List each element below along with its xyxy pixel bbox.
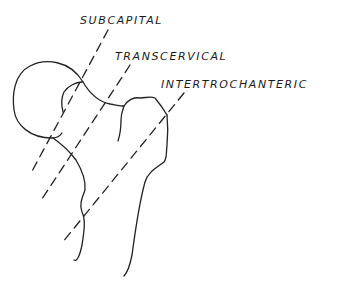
medial-shaft-outline — [53, 138, 85, 260]
subcapital-label: SUBCAPITAL — [80, 15, 163, 26]
superior-neck-outline — [83, 82, 167, 115]
subcapital-fracture-line — [30, 30, 108, 175]
trochanteric-crest-line — [118, 106, 124, 141]
transcervical-label: TRANSCERVICAL — [115, 51, 227, 62]
femoral-head-outline — [13, 62, 83, 138]
femur-diagram: SUBCAPITAL TRANSCERVICAL INTERTROCHANTER… — [0, 0, 351, 286]
intertrochanteric-label: INTERTROCHANTERIC — [161, 79, 308, 90]
femur-outline-drawing — [0, 0, 351, 286]
